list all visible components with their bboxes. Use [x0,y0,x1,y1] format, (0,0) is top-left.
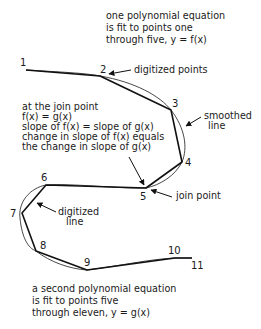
point-label-11: 11 [191,260,204,271]
title-note-line-1: one polynomial equation [106,10,225,21]
arrow-icon [109,70,131,74]
callout-join-point: join point [151,190,221,201]
point-label-2: 2 [100,64,106,75]
point-label-3: 3 [172,98,178,109]
point-label-6: 6 [41,172,47,183]
point-label-5: 5 [140,191,146,202]
callout-digitized-line-2: line [66,216,83,227]
join-conditions-line-5: the change in slope of g(x) [22,141,151,152]
polynomial-smoothing-diagram: one polynomial equation is fit to points… [0,0,261,329]
callout-digitized-points-text: digitized points [134,64,207,75]
bottom-note-line-1: a second polynomial equation [32,283,176,294]
callout-smoothed-line: smoothed line [186,110,252,131]
point-label-1: 1 [20,57,26,68]
arrow-icon [37,203,56,212]
title-note-line-2: is fit to points one [106,22,193,33]
title-note: one polynomial equation is fit to points… [106,10,225,45]
smoothed-curve-g [20,185,192,270]
arrow-icon [186,117,201,126]
bottom-note-line-3: through eleven, y = g(x) [32,307,150,318]
point-label-8: 8 [40,240,46,251]
arrow-icon [151,190,172,197]
callout-digitized-line: digitized line [37,203,99,227]
point-label-7: 7 [10,208,16,219]
callout-smoothed-line-2: line [208,120,225,131]
bottom-note: a second polynomial equation is fit to p… [32,283,176,318]
digitized-line [22,70,192,270]
arrow-icon [129,157,144,185]
point-label-4: 4 [185,157,191,168]
title-note-line-3: through five, y = f(x) [106,34,207,45]
point-labels: 1 2 3 4 5 6 7 8 9 10 11 [10,57,204,271]
callout-join-point-text: join point [175,190,221,201]
point-label-10: 10 [168,245,181,256]
callout-digitized-points: digitized points [109,64,207,75]
point-label-9: 9 [84,257,90,268]
bottom-note-line-2: is fit to points five [32,295,118,306]
